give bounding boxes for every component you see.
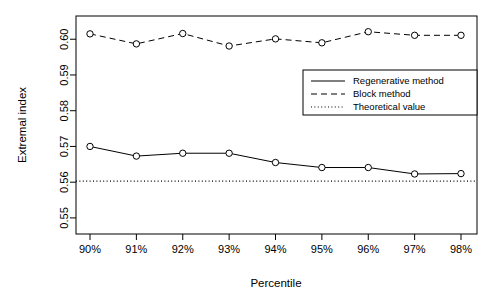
x-tick-label: 92% bbox=[172, 243, 194, 255]
x-tick-label: 97% bbox=[404, 243, 426, 255]
x-tick-label: 96% bbox=[357, 243, 379, 255]
y-axis-title: Extremal index bbox=[16, 87, 28, 163]
x-tick-label: 95% bbox=[311, 243, 333, 255]
data-point-marker bbox=[133, 41, 139, 47]
data-point-marker bbox=[272, 36, 278, 42]
x-tick-label: 98% bbox=[450, 243, 472, 255]
data-point-marker bbox=[87, 143, 93, 149]
data-point-marker bbox=[319, 164, 325, 170]
y-tick-label: 0.60 bbox=[58, 29, 70, 50]
extremal-index-line-chart: 0.550.560.570.580.590.60 90%91%92%93%94%… bbox=[0, 0, 493, 306]
x-tick-label: 90% bbox=[79, 243, 101, 255]
data-point-marker bbox=[272, 159, 278, 165]
data-point-marker bbox=[458, 170, 464, 176]
x-axis-title: Percentile bbox=[250, 277, 301, 289]
x-tick-label: 93% bbox=[218, 243, 240, 255]
y-tick-label: 0.59 bbox=[58, 64, 70, 85]
y-tick-label: 0.56 bbox=[58, 171, 70, 192]
data-point-marker bbox=[365, 29, 371, 35]
legend-label: Theoretical value bbox=[353, 101, 425, 112]
data-point-marker bbox=[87, 31, 93, 37]
chart-figure: 0.550.560.570.580.590.60 90%91%92%93%94%… bbox=[0, 0, 493, 306]
y-tick-label: 0.55 bbox=[58, 207, 70, 228]
data-point-marker bbox=[319, 40, 325, 46]
data-point-marker bbox=[133, 153, 139, 159]
data-point-marker bbox=[411, 32, 417, 38]
legend-label: Block method bbox=[353, 88, 411, 99]
data-point-marker bbox=[226, 150, 232, 156]
x-tick-label: 91% bbox=[125, 243, 147, 255]
data-point-marker bbox=[180, 150, 186, 156]
y-tick-label: 0.58 bbox=[58, 100, 70, 121]
data-point-marker bbox=[411, 171, 417, 177]
data-point-marker bbox=[365, 164, 371, 170]
data-point-marker bbox=[180, 30, 186, 36]
data-point-marker bbox=[458, 32, 464, 38]
legend-box: Regenerative methodBlock methodTheoretic… bbox=[303, 70, 477, 115]
y-tick-label: 0.57 bbox=[58, 136, 70, 157]
data-point-marker bbox=[226, 43, 232, 49]
x-tick-label: 94% bbox=[264, 243, 286, 255]
legend-label: Regenerative method bbox=[353, 75, 444, 86]
figure-background bbox=[0, 0, 493, 306]
